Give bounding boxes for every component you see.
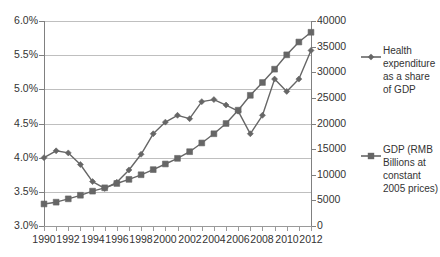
square-marker-icon	[162, 161, 168, 167]
diamond-marker-icon	[308, 47, 314, 53]
diamond-marker-icon	[223, 102, 229, 108]
square-marker-icon	[211, 131, 217, 137]
legend-entry[interactable]: GDP (RMB Billions at constant 2005 price…	[360, 143, 440, 195]
legend-entry[interactable]: Health expenditure as a share of GDP	[360, 44, 440, 96]
square-marker-icon	[175, 155, 181, 161]
series-plot	[0, 0, 440, 257]
chart-container: 6.0%5.5%5.0%4.5%4.0%3.5%3.0% 40000350003…	[0, 0, 440, 257]
square-marker-icon	[90, 188, 96, 194]
square-marker-icon	[187, 149, 193, 155]
diamond-marker-icon	[41, 155, 47, 161]
square-marker-icon	[260, 80, 266, 86]
square-marker-icon	[284, 52, 290, 58]
square-marker-icon	[235, 107, 241, 113]
series-line	[44, 50, 311, 188]
square-marker-icon	[223, 121, 229, 127]
square-marker-icon	[296, 39, 302, 45]
square-marker-icon	[138, 172, 144, 178]
square-marker-icon	[65, 196, 71, 202]
square-marker-icon	[78, 192, 84, 198]
square-marker-icon	[308, 29, 314, 35]
square-marker-icon	[126, 176, 132, 182]
square-marker-icon	[199, 140, 205, 146]
square-marker-icon	[247, 92, 253, 98]
square-marker-icon	[272, 66, 278, 72]
diamond-marker-icon	[175, 112, 181, 118]
diamond-marker-icon	[211, 97, 217, 103]
square-marker-icon	[102, 185, 108, 191]
square-marker-icon	[41, 201, 47, 207]
square-marker-icon	[114, 181, 120, 187]
diamond-marker-icon	[53, 148, 59, 154]
square-marker-icon	[360, 147, 382, 157]
square-marker-icon	[53, 199, 59, 205]
square-marker-icon	[150, 167, 156, 173]
diamond-marker-icon	[360, 48, 382, 58]
